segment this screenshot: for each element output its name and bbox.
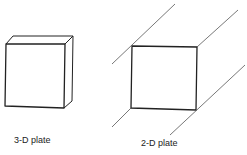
extension-line-bottom-left [112, 108, 131, 127]
three-d-front-face [5, 44, 65, 108]
diagram-canvas [0, 0, 247, 155]
three-d-plate-shape [5, 36, 73, 108]
extension-line-top-right [197, 10, 238, 47]
three-d-top-face [6, 36, 73, 44]
two-d-plate-shape [112, 4, 245, 135]
three-d-plate-label: 3-D plate [14, 135, 51, 145]
extension-line-bottom-right [170, 65, 245, 135]
two-d-square [131, 46, 197, 110]
extension-line-top-left [112, 4, 175, 64]
two-d-plate-label: 2-D plate [141, 138, 178, 148]
